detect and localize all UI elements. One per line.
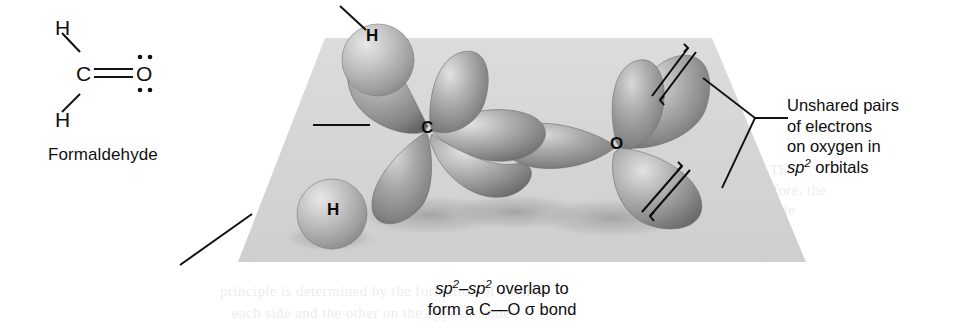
- leader-h-top: [340, 6, 366, 30]
- overlap-sp-2: sp: [468, 279, 485, 297]
- unshared-pairs-annotation: Unshared pairs of electrons on oxygen in…: [787, 95, 899, 177]
- scene-atom-h-top: H: [366, 26, 378, 46]
- unshared-line-2: of electrons: [787, 116, 899, 137]
- scene-atom-h-bottom: H: [327, 200, 339, 220]
- overlap-form-a-c: form a C: [428, 300, 491, 318]
- scene-atom-oxygen: O: [610, 134, 623, 154]
- scene-atom-carbon: C: [421, 118, 433, 138]
- overlap-bond-word: bond: [535, 300, 576, 318]
- sp-orbital-text: sp: [787, 158, 804, 176]
- overlap-bond-dash: —: [491, 300, 508, 318]
- orbitals-text: orbitals: [811, 158, 869, 176]
- unshared-line-1: Unshared pairs: [787, 95, 899, 116]
- unshared-line-4: sp2 orbitals: [787, 157, 899, 178]
- overlap-line-1: sp2–sp2 overlap to: [371, 278, 633, 299]
- unshared-line-3: on oxygen in: [787, 136, 899, 157]
- overlap-post: overlap to: [492, 279, 569, 297]
- overlap-line-2: form a C—O σ bond: [371, 299, 633, 320]
- formaldehyde-orbital-figure: unshared pair of electrons the plane of …: [0, 0, 973, 332]
- overlap-dash: –: [459, 279, 468, 297]
- overlap-caption: sp2–sp2 overlap to form a C—O σ bond: [371, 278, 633, 319]
- overlap-o: O: [507, 300, 524, 318]
- sigma-symbol: σ: [525, 300, 535, 318]
- overlap-sp-1: sp: [435, 279, 452, 297]
